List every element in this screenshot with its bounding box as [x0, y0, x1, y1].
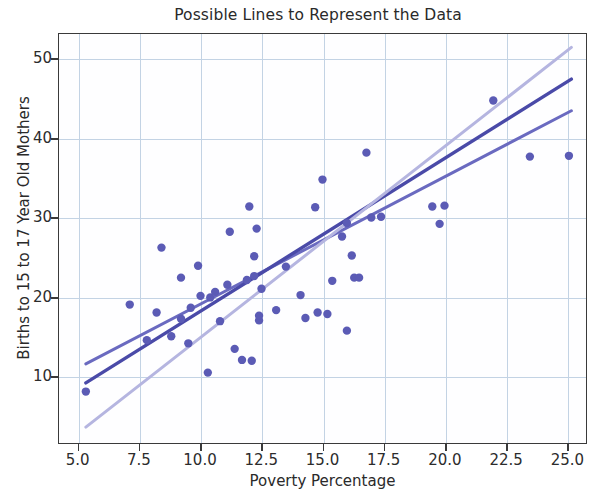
scatter-point — [428, 202, 436, 210]
x-tickmark — [384, 444, 386, 451]
scatter-point — [440, 201, 448, 209]
scatter-point — [565, 152, 573, 160]
scatter-point — [252, 224, 260, 232]
x-tick-label: 20.0 — [428, 451, 461, 469]
scatter-point — [187, 304, 195, 312]
scatter-point — [313, 308, 321, 316]
y-tick-label: 40 — [8, 129, 52, 147]
scatter-point — [355, 273, 363, 281]
y-tickmark — [51, 217, 58, 219]
scatter-point — [216, 317, 224, 325]
scatter-point — [338, 232, 346, 240]
scatter-point — [223, 281, 231, 289]
scatter-point — [211, 288, 219, 296]
scatter-point — [362, 148, 370, 156]
scatter-point — [323, 310, 331, 318]
scatter-point — [272, 306, 280, 314]
x-axis-tick-labels: 5.07.510.012.515.017.520.022.525.0 — [0, 451, 608, 475]
scatter-point — [311, 203, 319, 211]
x-tickmark — [78, 444, 80, 451]
x-tick-label: 7.5 — [127, 451, 151, 469]
scatter-point — [204, 368, 212, 376]
y-tickmark — [51, 138, 58, 140]
x-tick-label: 17.5 — [367, 451, 400, 469]
scatter-point — [238, 356, 246, 364]
scatter-point — [257, 285, 265, 293]
x-tickmark — [445, 444, 447, 451]
x-tickmark — [506, 444, 508, 451]
x-tick-label: 25.0 — [551, 451, 584, 469]
y-axis-tick-labels: 1020304050 — [0, 0, 52, 497]
scatter-point — [226, 228, 234, 236]
scatter-point — [196, 292, 204, 300]
data-layer — [59, 34, 586, 443]
scatter-point — [243, 276, 251, 284]
scatter-point — [282, 262, 290, 270]
chart-title: Possible Lines to Represent the Data — [58, 6, 578, 24]
scatter-point — [143, 336, 151, 344]
plot-area — [58, 33, 587, 444]
scatter-point — [250, 272, 258, 280]
y-tick-label: 30 — [8, 208, 52, 226]
x-tickmark — [323, 444, 325, 451]
scatter-points-group — [82, 96, 573, 395]
scatter-point — [126, 300, 134, 308]
scatter-point — [301, 314, 309, 322]
chart-figure: Possible Lines to Represent the Data Bir… — [0, 0, 608, 497]
x-tickmark — [200, 444, 202, 451]
scatter-point — [167, 332, 175, 340]
scatter-point — [367, 213, 375, 221]
scatter-point — [230, 345, 238, 353]
scatter-point — [157, 243, 165, 251]
y-tick-label: 10 — [8, 367, 52, 385]
x-tick-label: 12.5 — [245, 451, 278, 469]
y-tick-label: 50 — [8, 49, 52, 67]
scatter-point — [348, 251, 356, 259]
line-best-fit — [86, 79, 572, 383]
x-tickmark — [261, 444, 263, 451]
scatter-point — [296, 291, 304, 299]
y-tick-label: 20 — [8, 288, 52, 306]
scatter-point — [435, 220, 443, 228]
x-tick-label: 5.0 — [66, 451, 90, 469]
x-tick-label: 10.0 — [183, 451, 216, 469]
scatter-point — [343, 326, 351, 334]
scatter-point — [250, 252, 258, 260]
scatter-point — [328, 277, 336, 285]
scatter-point — [177, 273, 185, 281]
x-tickmark — [567, 444, 569, 451]
scatter-point — [82, 387, 90, 395]
y-tickmark — [51, 58, 58, 60]
scatter-point — [184, 339, 192, 347]
scatter-point — [177, 315, 185, 323]
scatter-point — [194, 262, 202, 270]
x-tick-label: 22.5 — [489, 451, 522, 469]
scatter-point — [318, 175, 326, 183]
x-tick-label: 15.0 — [306, 451, 339, 469]
line-steep-light — [86, 47, 572, 427]
y-tickmark — [51, 297, 58, 299]
scatter-point — [343, 219, 351, 227]
trend-lines-group — [86, 47, 572, 427]
scatter-point — [248, 357, 256, 365]
scatter-point — [152, 308, 160, 316]
scatter-point — [255, 311, 263, 319]
scatter-point — [245, 202, 253, 210]
y-tickmark — [51, 376, 58, 378]
scatter-point — [489, 96, 497, 104]
scatter-point — [526, 152, 534, 160]
scatter-point — [377, 213, 385, 221]
x-tickmark — [139, 444, 141, 451]
